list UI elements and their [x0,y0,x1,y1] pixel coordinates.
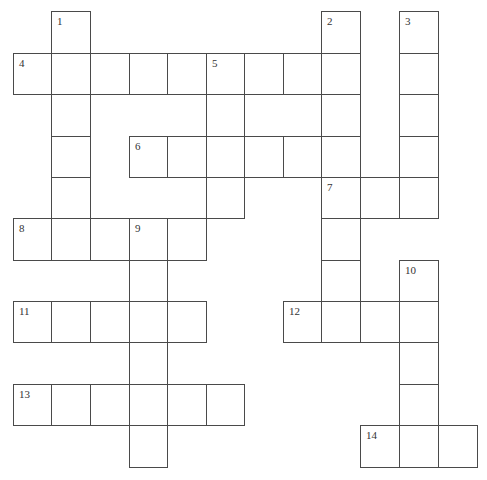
clue-number: 10 [405,265,416,276]
crossword-cell[interactable]: 8 [13,218,52,261]
crossword-cell[interactable] [399,301,439,343]
crossword-cell[interactable] [129,260,168,302]
crossword-cell[interactable] [129,342,168,385]
crossword-cell[interactable] [206,384,245,426]
crossword-cell[interactable] [360,177,400,219]
crossword-cell[interactable] [51,218,91,261]
crossword-cell[interactable]: 1 [51,11,91,54]
crossword-cell[interactable] [399,342,439,385]
crossword-cell[interactable] [399,384,439,426]
crossword-cell[interactable] [51,301,91,343]
crossword-cell[interactable] [321,218,361,261]
crossword-cell[interactable] [167,218,207,261]
crossword-cell[interactable] [129,301,168,343]
clue-number: 1 [57,16,63,27]
crossword-cell[interactable] [167,301,207,343]
crossword-cell[interactable] [51,53,91,95]
crossword-cell[interactable] [399,53,439,95]
crossword-cell[interactable] [90,301,130,343]
crossword-cell[interactable] [206,136,245,178]
crossword-cell[interactable] [399,425,439,468]
clue-number: 2 [327,16,333,27]
crossword-cell[interactable]: 4 [13,53,52,95]
crossword-cell[interactable]: 6 [129,136,168,178]
crossword-cell[interactable]: 11 [13,301,52,343]
crossword-cell[interactable] [129,384,168,426]
crossword-cell[interactable] [360,301,400,343]
clue-number: 14 [366,430,377,441]
crossword-grid: 1234567891011121314 [0,0,487,480]
crossword-cell[interactable]: 10 [399,260,439,302]
crossword-cell[interactable] [321,136,361,178]
clue-number: 4 [19,58,25,69]
crossword-cell[interactable]: 12 [283,301,322,343]
crossword-cell[interactable] [438,425,478,468]
crossword-cell[interactable] [51,177,91,219]
crossword-cell[interactable]: 14 [360,425,400,468]
clue-number: 12 [289,306,300,317]
clue-number: 9 [135,223,141,234]
clue-number: 8 [19,223,25,234]
crossword-cell[interactable] [399,136,439,178]
clue-number: 11 [19,306,30,317]
crossword-cell[interactable] [129,53,168,95]
crossword-cell[interactable] [321,301,361,343]
crossword-cell[interactable] [399,177,439,219]
crossword-cell[interactable] [399,94,439,137]
crossword-cell[interactable]: 2 [321,11,361,54]
crossword-cell[interactable] [321,53,361,95]
clue-number: 3 [405,16,411,27]
crossword-cell[interactable] [244,136,284,178]
crossword-cell[interactable] [206,177,245,219]
crossword-cell[interactable]: 9 [129,218,168,261]
crossword-cell[interactable] [90,218,130,261]
crossword-cell[interactable] [206,94,245,137]
crossword-cell[interactable] [321,260,361,302]
clue-number: 5 [212,58,218,69]
crossword-cell[interactable] [321,94,361,137]
clue-number: 7 [327,182,333,193]
clue-number: 13 [19,389,30,400]
crossword-cell[interactable] [167,384,207,426]
crossword-cell[interactable]: 3 [399,11,439,54]
crossword-cell[interactable]: 13 [13,384,52,426]
crossword-cell[interactable] [244,53,284,95]
crossword-cell[interactable] [283,136,322,178]
clue-number: 6 [135,141,141,152]
crossword-cell[interactable] [51,384,91,426]
crossword-cell[interactable] [283,53,322,95]
crossword-cell[interactable] [167,136,207,178]
crossword-cell[interactable] [51,94,91,137]
crossword-cell[interactable]: 7 [321,177,361,219]
crossword-cell[interactable] [51,136,91,178]
crossword-cell[interactable] [129,425,168,468]
crossword-cell[interactable] [167,53,207,95]
crossword-cell[interactable] [90,53,130,95]
crossword-cell[interactable] [90,384,130,426]
crossword-cell[interactable]: 5 [206,53,245,95]
